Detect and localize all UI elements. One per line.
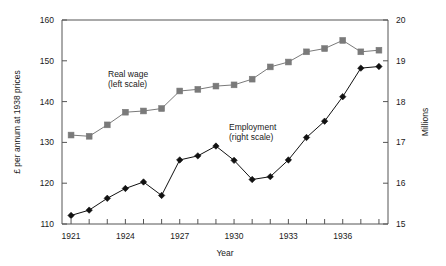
y-axis-right-ticklabel: 19 — [396, 56, 406, 66]
annotation-employment-line1: Employment — [229, 122, 277, 132]
data-point-marker — [340, 38, 346, 44]
y-axis-right-ticklabel: 18 — [396, 97, 406, 107]
data-point-marker — [322, 46, 328, 52]
x-axis-ticklabel: 1936 — [333, 231, 352, 241]
y-axis-right-ticklabel: 15 — [396, 219, 406, 229]
data-point-marker — [68, 132, 74, 138]
chart-container: 110120130140150160 151617181920 19211924… — [0, 0, 446, 266]
data-point-marker — [195, 86, 201, 92]
y-axis-left-ticklabel: 130 — [40, 137, 54, 147]
annotation-employment: Employment (right scale) — [229, 122, 277, 142]
annotation-real-wage: Real wage (left scale) — [108, 69, 148, 89]
data-point-marker — [122, 185, 128, 191]
dual-axis-line-chart: 110120130140150160 151617181920 19211924… — [0, 0, 446, 266]
y-axis-right-labels: 151617181920 — [396, 15, 406, 229]
y-axis-left-ticklabel: 160 — [40, 15, 54, 25]
annotation-employment-line2: (right scale) — [229, 132, 274, 142]
y-axis-left-ticks — [62, 20, 67, 224]
x-axis-ticks — [71, 219, 379, 224]
y-axis-left-ticklabel: 150 — [40, 56, 54, 66]
x-axis-ticklabel: 1933 — [279, 231, 298, 241]
data-point-marker — [358, 49, 364, 55]
data-point-marker — [249, 76, 255, 82]
y-axis-left-labels: 110120130140150160 — [40, 15, 54, 229]
data-point-marker — [86, 207, 92, 213]
y-axis-left-ticklabel: 120 — [40, 178, 54, 188]
data-point-marker — [231, 82, 237, 88]
x-axis-title: Year — [216, 248, 233, 258]
x-axis-ticklabel: 1921 — [62, 231, 81, 241]
y-axis-left-title: £ per annum at 1938 prices — [12, 70, 22, 173]
y-axis-right-ticklabel: 16 — [396, 178, 406, 188]
data-point-marker — [195, 153, 201, 159]
data-point-marker — [304, 49, 310, 55]
data-point-marker — [177, 157, 183, 163]
data-point-marker — [213, 83, 219, 89]
annotation-real-wage-line1: Real wage — [108, 69, 148, 79]
x-axis-ticklabel: 1924 — [116, 231, 135, 241]
data-point-marker — [159, 106, 165, 112]
series-layer — [68, 38, 382, 219]
x-axis-ticklabel: 1927 — [170, 231, 189, 241]
x-axis-ticklabel: 1930 — [225, 231, 244, 241]
data-point-marker — [141, 108, 147, 114]
y-axis-right-ticklabel: 17 — [396, 137, 406, 147]
data-point-marker — [104, 195, 110, 201]
data-point-marker — [68, 212, 74, 218]
y-axis-right-title: Millions — [420, 108, 430, 136]
data-point-marker — [104, 122, 110, 128]
data-point-marker — [122, 109, 128, 115]
data-point-marker — [86, 133, 92, 139]
y-axis-right-ticks — [383, 20, 388, 224]
annotation-real-wage-line2: (left scale) — [108, 79, 147, 89]
data-point-marker — [358, 65, 364, 71]
data-point-marker — [376, 63, 382, 69]
y-axis-left-ticklabel: 140 — [40, 97, 54, 107]
data-point-marker — [177, 88, 183, 94]
y-axis-right-ticklabel: 20 — [396, 15, 406, 25]
x-axis-labels: 192119241927193019331936 — [62, 231, 353, 241]
data-point-marker — [285, 59, 291, 65]
y-axis-left-ticklabel: 110 — [40, 219, 54, 229]
data-point-marker — [376, 47, 382, 53]
data-point-marker — [267, 64, 273, 70]
